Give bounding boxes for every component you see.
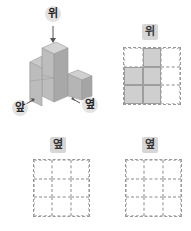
grid-cell[interactable] xyxy=(34,179,52,198)
grid-cell[interactable] xyxy=(71,160,89,179)
grid-cell xyxy=(124,48,143,67)
grid-cell xyxy=(161,85,180,104)
grid-cell-filled xyxy=(143,48,162,67)
side-view-grid-1[interactable] xyxy=(33,159,90,217)
grid-cell[interactable] xyxy=(71,197,89,216)
grid-cell-filled xyxy=(124,67,143,86)
grid-cell[interactable] xyxy=(126,197,144,216)
view-label-side-2: 옆 xyxy=(142,137,158,153)
top-view-grid xyxy=(123,47,181,105)
grid-cell[interactable] xyxy=(163,197,181,216)
view-label-top: 위 xyxy=(142,24,158,40)
grid-cell[interactable] xyxy=(144,179,162,198)
grid-cell[interactable] xyxy=(126,160,144,179)
view-label-side-1: 옆 xyxy=(50,137,66,153)
grid-cell[interactable] xyxy=(163,160,181,179)
grid-cell[interactable] xyxy=(144,197,162,216)
grid-cell-filled xyxy=(124,85,143,104)
grid-cell[interactable] xyxy=(163,179,181,198)
side-view-grid-2[interactable] xyxy=(125,159,182,217)
grid-cell[interactable] xyxy=(52,179,70,198)
top-view-label: 위 xyxy=(45,6,61,22)
grid-cell xyxy=(161,48,180,67)
grid-cell-filled xyxy=(143,67,162,86)
grid-cell[interactable] xyxy=(34,197,52,216)
front-view-label: 앞 xyxy=(12,100,28,116)
cube-figure: 위 앞 옆 xyxy=(0,0,100,115)
grid-cell[interactable] xyxy=(126,179,144,198)
grid-cell[interactable] xyxy=(52,160,70,179)
grid-cell xyxy=(161,67,180,86)
grid-cell-filled xyxy=(143,85,162,104)
grid-cell[interactable] xyxy=(144,160,162,179)
grid-cell[interactable] xyxy=(71,179,89,198)
side-view-label: 옆 xyxy=(82,97,98,113)
grid-cell[interactable] xyxy=(52,197,70,216)
grid-cell[interactable] xyxy=(34,160,52,179)
